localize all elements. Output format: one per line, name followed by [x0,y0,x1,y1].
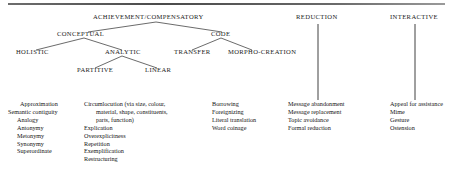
list-item: parts, function) [84,116,168,124]
node-morpho-creation: MORPHO-CREATION [228,48,296,56]
node-achievement-compensatory: ACHIEVEMENT/COMPENSATORY [93,13,204,21]
list-item: Repetition [84,140,168,148]
list-reduction: Message abandonmentMessage replacementTo… [288,100,345,132]
list-item: Approximation [8,100,58,108]
node-partitive: PARTITIVE [77,66,113,74]
list-item: Overexplicitness [84,132,168,140]
list-item: Formal reduction [288,124,345,132]
node-transfer: TRANSFER [174,48,211,56]
node-analytic: ANALYTIC [105,48,141,56]
header-reduction: REDUCTION [296,13,338,20]
tree-connector-lines [0,0,451,186]
list-item: Ostension [390,124,443,132]
list-item: Foreignizing [212,108,256,116]
list-code: BorrowingForeignizingLiteral translation… [212,100,256,132]
list-item: Word coinage [212,124,256,132]
list-item: Synonymy [8,140,58,148]
list-item: Borrowing [212,100,256,108]
list-item: Analogy [8,116,58,124]
list-item: Message replacement [288,108,345,116]
list-item: Explication [84,124,168,132]
taxonomy-diagram: ACHIEVEMENT/COMPENSATORY CONCEPTUAL CODE… [0,0,451,186]
list-item: Appeal for assistance [390,100,443,108]
node-conceptual: CONCEPTUAL [57,30,104,38]
list-item: Topic avoidance [288,116,345,124]
list-item: Literal translation [212,116,256,124]
node-code: CODE [211,30,230,38]
list-item: Semantic contiguity [8,108,58,116]
list-item: Circumlocution (via size, colour, [84,100,168,108]
list-item: Gesture [390,116,443,124]
list-conceptual-holistic: ApproximationSemantic contiguityAnalogyA… [8,100,58,155]
node-holistic: HOLISTIC [16,48,49,56]
node-linear: LINEAR [145,66,171,74]
list-item: Antonymy [8,124,58,132]
list-item: material, shape, constituents, [84,108,168,116]
list-interactive: Appeal for assistanceMimeGestureOstensio… [390,100,443,132]
list-item: Exemplification [84,147,168,155]
list-item: Restructuring [84,155,168,163]
list-item: Superordinate [8,147,58,155]
list-item: Metonymy [8,132,58,140]
header-interactive: INTERACTIVE [390,13,438,20]
list-item: Mime [390,108,443,116]
list-item: Message abandonment [288,100,345,108]
list-analytic: Circumlocution (via size, colour,materia… [84,100,168,163]
